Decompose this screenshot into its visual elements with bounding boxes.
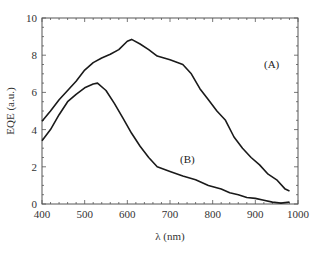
svg-text:600: 600 <box>119 208 136 220</box>
svg-text:4: 4 <box>32 124 38 136</box>
svg-text:500: 500 <box>76 208 93 220</box>
axis-tick-labels: 40050060070080090010000246810 <box>26 12 310 220</box>
curve-a <box>42 39 290 191</box>
axis-ticks <box>42 18 298 204</box>
series-label-a: (A) <box>264 58 280 71</box>
eqe-chart: 40050060070080090010000246810 (A) (B) λ … <box>0 0 326 253</box>
x-axis-label: λ (nm) <box>155 230 185 243</box>
series-label-b: (B) <box>180 153 195 166</box>
data-curves <box>42 39 290 203</box>
svg-text:800: 800 <box>204 208 221 220</box>
plot-frame <box>42 18 298 204</box>
curve-b <box>42 83 290 203</box>
svg-text:1000: 1000 <box>287 208 310 220</box>
y-axis-label: EQE (a.u.) <box>4 87 17 135</box>
svg-text:2: 2 <box>32 161 38 173</box>
svg-text:700: 700 <box>162 208 179 220</box>
svg-text:0: 0 <box>32 198 38 210</box>
svg-text:6: 6 <box>32 86 38 98</box>
svg-text:10: 10 <box>26 12 38 24</box>
svg-text:900: 900 <box>247 208 264 220</box>
svg-text:8: 8 <box>32 49 38 61</box>
